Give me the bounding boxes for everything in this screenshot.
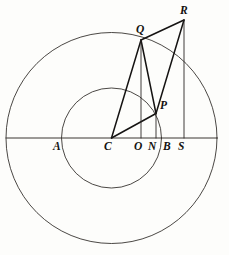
segment-C-Q <box>112 40 142 138</box>
point-label-B: B <box>163 141 171 153</box>
point-label-C: C <box>104 141 112 153</box>
point-label-S: S <box>178 141 185 153</box>
segment-Q-R <box>141 20 184 40</box>
geometric-diagram-canvas <box>0 0 229 255</box>
point-label-R: R <box>180 5 188 17</box>
figure-container: A C O N B S P Q R <box>0 0 229 255</box>
segment-Q-P <box>141 40 156 114</box>
point-label-N: N <box>148 141 157 153</box>
point-label-P: P <box>160 100 167 112</box>
point-label-Q: Q <box>136 24 145 36</box>
point-label-O: O <box>134 141 143 153</box>
point-label-A: A <box>53 141 61 153</box>
